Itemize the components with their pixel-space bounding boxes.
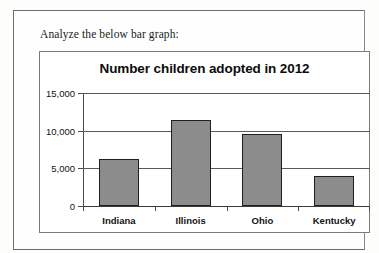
x-axis-tick-mark xyxy=(369,206,370,211)
screenshot-page: Analyze the below bar graph: Number chil… xyxy=(0,0,379,253)
bar[interactable] xyxy=(242,134,282,206)
prompt-text: Analyze the below bar graph: xyxy=(40,28,179,40)
y-axis-tick-label: 5,000 xyxy=(51,163,75,174)
document-frame: Analyze the below bar graph: Number chil… xyxy=(13,10,365,250)
bar[interactable] xyxy=(171,120,211,206)
x-axis-tick-label: Kentucky xyxy=(313,215,356,226)
x-axis-tick-mark xyxy=(83,206,84,211)
x-axis-tick-mark xyxy=(155,206,156,211)
x-axis-tick-label: Illinois xyxy=(176,215,206,226)
y-axis-tick-label: 0 xyxy=(70,201,75,212)
bar-slot xyxy=(83,93,155,206)
bar[interactable] xyxy=(99,159,139,206)
bar[interactable] xyxy=(314,176,354,206)
bar-slot xyxy=(227,93,299,206)
x-axis-tick-label: Indiana xyxy=(102,215,135,226)
y-axis-tick-label: 15,000 xyxy=(46,88,75,99)
x-axis-tick-label: Ohio xyxy=(252,215,274,226)
bars-group xyxy=(83,93,370,206)
bar-slot xyxy=(155,93,227,206)
chart-title: Number children adopted in 2012 xyxy=(40,61,369,76)
y-axis-tick-label: 10,000 xyxy=(46,125,75,136)
plot-area: 05,00010,00015,000 IndianaIllinoisOhioKe… xyxy=(83,93,370,206)
bar-slot xyxy=(298,93,370,206)
bar-chart-figure: Number children adopted in 2012 05,00010… xyxy=(39,51,370,233)
x-axis-tick-mark xyxy=(227,206,228,211)
x-axis-tick-mark xyxy=(298,206,299,211)
